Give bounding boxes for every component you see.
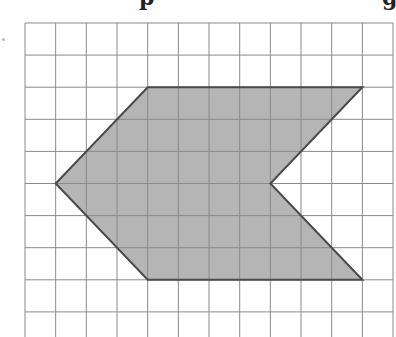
- grid-diagram: [0, 0, 396, 337]
